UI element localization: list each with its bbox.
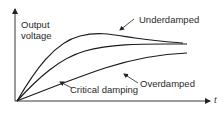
overdamped-leader xyxy=(124,74,138,83)
critical-damping-label: Critical damping xyxy=(70,84,138,95)
overdamped-label: Overdamped xyxy=(140,78,195,89)
y-axis-label-line2: voltage xyxy=(21,30,52,41)
x-axis-label: t xyxy=(214,94,217,105)
underdamped-label: Underdamped xyxy=(139,14,199,25)
underdamped-leader xyxy=(120,19,134,30)
y-axis-label-line1: Output xyxy=(21,19,50,30)
damping-response-diagram: Output voltage Underdamped Critical damp… xyxy=(0,0,223,118)
